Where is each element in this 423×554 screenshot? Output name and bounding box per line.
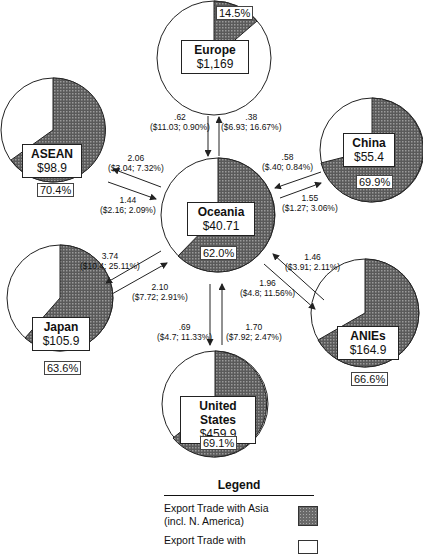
label-japan: Japan $105.9 (32, 317, 90, 351)
flow-anies-b: 1.96($4.8; 11.56%) (240, 278, 295, 298)
pct-oceania: 62.0% (200, 246, 237, 260)
pct-asean: 70.4% (37, 183, 74, 197)
legend-item-asia: Export Trade with Asia (incl. N. America… (164, 502, 314, 528)
legend-swatch-white (298, 540, 318, 554)
label-china: China $55.4 (343, 133, 395, 167)
flow-china-a: .58($.40; 0.84%) (262, 152, 313, 172)
pct-anies: 66.6% (351, 372, 388, 386)
legend-title: Legend (164, 478, 314, 496)
flow-us-a: .69($4.7; 11.33%) (157, 322, 212, 342)
label-anies: ANIEs $164.9 (337, 326, 399, 360)
legend-item-other: Export Trade with (164, 534, 314, 547)
label-asean: ASEAN $98.9 (22, 144, 82, 178)
flow-us-b: 1.70($7.92; 2.47%) (226, 322, 282, 342)
flow-china-b: 1.55($1.27; 3.06%) (282, 193, 338, 213)
flow-europe-in: .62($11.03; 0.90%) (150, 112, 210, 132)
label-oceania: Oceania $40.71 (187, 202, 255, 236)
flow-japan-a: 3.74($10.4; 25.11%) (80, 251, 140, 271)
flow-asean-a: 2.06($3.04; 7.32%) (108, 153, 164, 173)
pct-europe: 14.5% (216, 6, 253, 20)
flow-japan-b: 2.10($7.72; 2.91%) (132, 282, 188, 302)
pct-japan: 63.6% (44, 361, 81, 375)
legend-swatch-shaded (298, 506, 318, 526)
flow-asean-b: 1.44($2.16; 2.09%) (100, 195, 156, 215)
pct-china: 69.9% (356, 175, 393, 189)
pct-united-states: 69.1% (200, 436, 237, 450)
flow-anies-a: 1.46($3.91; 2.11%) (285, 252, 340, 272)
flow-europe-out: .38($6.93; 16.67%) (221, 112, 281, 132)
label-europe: Europe $1,169 (181, 40, 249, 74)
legend: Legend Export Trade with Asia (incl. N. … (164, 478, 374, 547)
